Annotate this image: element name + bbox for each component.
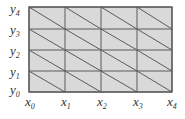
x-label-2: x2	[96, 94, 107, 111]
y-label-0: y0	[8, 82, 20, 99]
y-label-4: y4	[8, 1, 20, 18]
y-label-1: y1	[8, 64, 20, 81]
y-axis-labels: y4 y3 y2 y1 y0	[8, 1, 20, 99]
x-label-3: x3	[132, 94, 143, 111]
x-label-0: x0	[24, 94, 35, 111]
x-label-4: x4	[166, 94, 177, 111]
triangulated-grid-diagram: y4 y3 y2 y1 y0 x0 x1 x2 x3 x4	[0, 0, 185, 119]
y-label-2: y2	[8, 43, 20, 60]
y-label-3: y3	[8, 22, 20, 39]
x-axis-labels: x0 x1 x2 x3 x4	[24, 94, 177, 111]
x-label-1: x1	[60, 94, 71, 111]
